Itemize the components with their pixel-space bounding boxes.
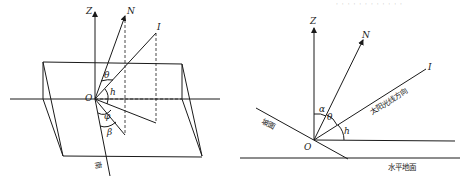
right-label-n: N [361, 30, 371, 40]
plane-right-slant-back [182, 64, 202, 156]
plane-bottom-edge [63, 156, 202, 157]
right-label-o: O [304, 142, 312, 152]
diagram-canvas: Z N I O θ h φ β 南 Z N I O α θ h 坡面 太阳 [0, 0, 462, 181]
right-label-horizontal-ground: 水平地面 [388, 162, 417, 172]
horizontal-reference-line [314, 140, 455, 141]
left-figure: Z N I O θ h φ β 南 [10, 6, 220, 176]
right-label-i: I [427, 62, 432, 72]
right-label-theta: θ [327, 112, 333, 122]
right-label-h: h [344, 126, 350, 136]
left-label-o: O [85, 93, 93, 103]
plane-right-slant-front [182, 99, 202, 156]
left-label-z: Z [85, 6, 93, 16]
sun-ray-line [95, 33, 156, 99]
left-label-i: I [156, 22, 161, 32]
h-arc [105, 89, 108, 104]
left-label-south: 南 [93, 160, 104, 170]
left-label-h: h [110, 87, 116, 97]
right-label-sun-direction: 太阳光线方向 [368, 86, 409, 117]
right-figure: Z N I O α θ h 坡面 太阳光线方向 水平地面 [240, 16, 460, 172]
left-label-n: N [126, 6, 136, 16]
right-sun-ray-line [314, 69, 426, 140]
left-label-theta: θ [104, 70, 110, 80]
plane-top-edge [43, 62, 182, 64]
left-label-beta: β [106, 127, 112, 137]
right-label-alpha: α [319, 104, 325, 114]
left-label-phi: φ [104, 111, 111, 121]
alpha-arc [314, 114, 326, 116]
slope-line [256, 108, 348, 159]
right-label-z: Z [309, 16, 317, 26]
